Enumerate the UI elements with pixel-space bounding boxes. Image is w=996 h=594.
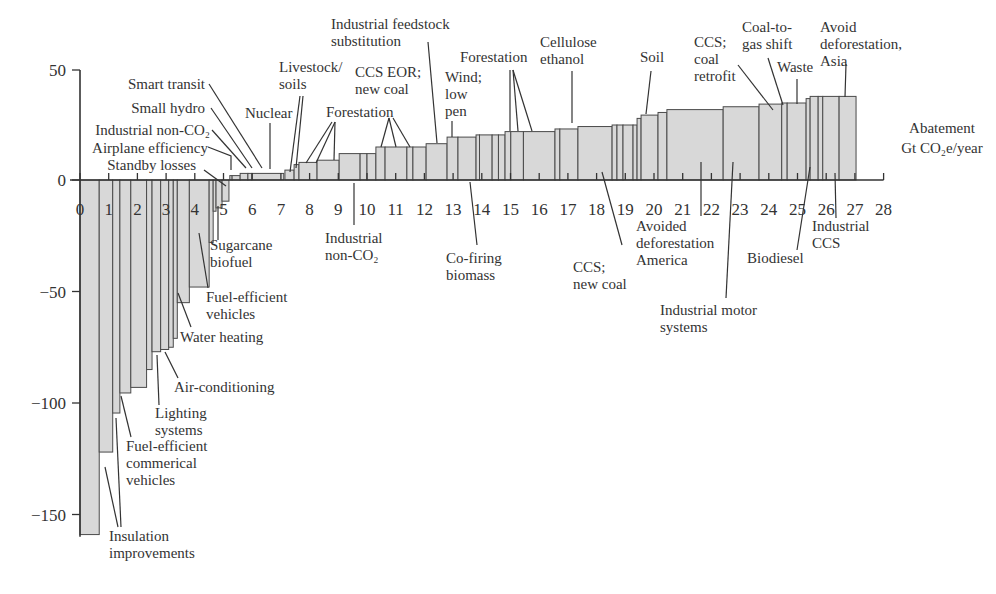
bar (723, 107, 759, 180)
y-tick-label: −100 (31, 394, 66, 413)
annotation-label: ethanol (540, 51, 584, 67)
bar (818, 96, 823, 180)
y-tick-label: −50 (39, 283, 66, 302)
annotation-label: Insulation (109, 528, 169, 544)
bar (240, 173, 248, 180)
x-tick-label: 3 (162, 200, 171, 219)
annotation-label: Industrial (812, 218, 870, 234)
x-tick-label: 13 (445, 200, 462, 219)
y-tick-label: 0 (58, 171, 67, 190)
x-tick-label: 26 (818, 200, 835, 219)
bar (376, 147, 385, 180)
annotation-label: Air-conditioning (174, 379, 275, 395)
annotation-label: Waste (777, 59, 814, 75)
bar (637, 118, 641, 180)
x-tick-label: 10 (359, 200, 376, 219)
annotation-label: Lighting (155, 405, 207, 421)
annotation-label: biomass (446, 267, 495, 283)
annotation-label: Standby losses (107, 157, 196, 173)
annotation-label: improvements (109, 545, 195, 561)
leader-line (296, 96, 303, 168)
bar (498, 135, 505, 180)
leader-line (428, 42, 437, 143)
annotation-label: new coal (355, 81, 409, 97)
x-tick-label: 6 (248, 200, 257, 219)
bar (426, 144, 447, 180)
bar (147, 180, 152, 370)
x-tick-label: 16 (531, 200, 548, 219)
x-tick-label: 18 (588, 200, 605, 219)
abatement-cost-curve-chart: 0123456789101112131415161718192021222324… (0, 0, 996, 594)
bar (787, 103, 806, 180)
leader-line (646, 71, 651, 114)
bar (173, 180, 177, 338)
annotation-label: Water heating (180, 329, 264, 345)
annotation-label: Asia (820, 53, 848, 69)
bar (299, 162, 317, 180)
x-tick-label: 4 (191, 200, 200, 219)
bar (578, 127, 612, 180)
annotation-label: CCS EOR; (355, 64, 421, 80)
bar (782, 103, 787, 180)
annotation-label: deforestation, (820, 36, 902, 52)
annotation-label: coal (694, 51, 719, 67)
x-tick-label: 19 (617, 200, 634, 219)
leader-line (381, 118, 389, 147)
annotation-label: CCS (812, 235, 840, 251)
x-axis-label-line-1: Abatement (909, 120, 976, 136)
bar (113, 180, 120, 413)
bar (177, 180, 189, 303)
x-tick-label: 5 (219, 200, 228, 219)
y-tick-label: 50 (49, 61, 66, 80)
x-tick-label: 27 (846, 200, 864, 219)
bar (120, 180, 131, 393)
leader-line (157, 355, 159, 405)
annotation-label: Co-firing (446, 250, 502, 266)
x-axis-label-line-2: Gt CO₂e/year (901, 140, 982, 156)
bar (360, 154, 367, 180)
annotation-label: Nuclear (245, 105, 292, 121)
bar (623, 125, 633, 180)
x-tick-label: 11 (388, 200, 404, 219)
x-tick-label: 23 (732, 200, 749, 219)
x-tick-label: 8 (305, 200, 314, 219)
annotation-label: CCS; (694, 34, 727, 50)
x-tick-label: 20 (646, 200, 663, 219)
annotation-label: vehicles (206, 306, 255, 322)
bar (839, 96, 856, 180)
annotation-label: soils (279, 76, 307, 92)
y-tick-label: −150 (31, 506, 66, 525)
annotation-label: biofuel (210, 254, 253, 270)
bar (252, 173, 284, 180)
bar (617, 125, 623, 180)
x-tick-label: 12 (416, 200, 433, 219)
bar (407, 147, 413, 180)
leader-line (334, 122, 335, 160)
annotation-label: deforestation (636, 235, 715, 251)
bar (759, 104, 782, 180)
annotation-label: Industrial non-CO₂ (95, 122, 210, 138)
annotation-label: vehicles (126, 472, 175, 488)
x-tick-label: 9 (334, 200, 343, 219)
annotation-label: Small hydro (131, 100, 205, 116)
annotation-label: Industrial motor (660, 302, 757, 318)
bar (476, 135, 479, 180)
x-tick-label: 21 (674, 200, 691, 219)
annotation-label: systems (660, 319, 708, 335)
annotation-label: retrofit (694, 68, 736, 84)
bar (492, 135, 498, 180)
x-tick-label: 2 (133, 200, 142, 219)
bar (641, 115, 658, 180)
bar (248, 173, 252, 180)
x-tick-label: 14 (473, 200, 491, 219)
x-tick-label: 17 (559, 200, 577, 219)
annotation-label: non-CO₂ (325, 247, 379, 263)
bar (555, 129, 560, 180)
annotation-label: America (636, 252, 688, 268)
annotation-label: new coal (573, 276, 627, 292)
bar (511, 132, 524, 180)
annotation-label: Smart transit (128, 76, 206, 92)
bar (667, 110, 723, 180)
annotation-label: Soil (640, 49, 664, 65)
annotation-label: Coal-to- (742, 19, 792, 35)
